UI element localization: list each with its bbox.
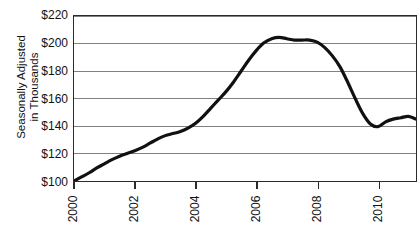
x-tick-label: 2000 bbox=[53, 189, 93, 229]
x-tick-label: 2008 bbox=[298, 189, 338, 229]
x-tick-label: 2010 bbox=[359, 189, 399, 229]
x-tick-mark bbox=[318, 182, 320, 189]
x-axis-tick-labels: 200020022004200620082010 bbox=[73, 189, 417, 230]
y-tick-label: $200 bbox=[24, 37, 68, 49]
y-tick-label: $100 bbox=[24, 176, 68, 188]
x-tick-mark bbox=[134, 182, 136, 189]
x-tick-label: 2006 bbox=[236, 189, 276, 229]
series-line bbox=[74, 16, 416, 181]
x-tick-mark bbox=[256, 182, 258, 189]
line-chart: Seasonally Adjusted in Thousands $220$20… bbox=[0, 0, 420, 230]
x-tick-mark bbox=[379, 182, 381, 189]
y-tick-label: $120 bbox=[24, 148, 68, 160]
plot-area bbox=[73, 15, 417, 182]
x-axis-ticks bbox=[73, 182, 417, 189]
x-tick-mark bbox=[195, 182, 197, 189]
x-tick-mark bbox=[73, 182, 75, 189]
y-tick-label: $220 bbox=[24, 9, 68, 21]
y-tick-label: $140 bbox=[24, 120, 68, 132]
y-tick-label: $180 bbox=[24, 65, 68, 77]
y-tick-label: $160 bbox=[24, 93, 68, 105]
x-tick-label: 2004 bbox=[175, 189, 215, 229]
x-tick-label: 2002 bbox=[114, 189, 154, 229]
